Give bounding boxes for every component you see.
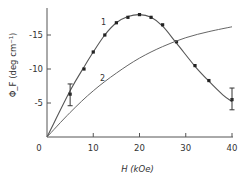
data-point — [103, 33, 106, 36]
data-point — [193, 64, 196, 67]
curve-label-1: 1 — [101, 18, 106, 27]
x-tick-label: 20 — [134, 143, 145, 153]
curve-label-2: 2 — [100, 74, 105, 83]
y-tick-label: -10 — [29, 64, 43, 74]
y-tick-label: -5 — [35, 98, 43, 108]
data-point — [82, 67, 85, 70]
data-point — [207, 79, 210, 82]
series-layer — [47, 13, 235, 137]
x-tick-label: 10 — [88, 143, 99, 153]
data-point — [138, 13, 141, 16]
data-point — [149, 16, 152, 19]
x-axis-label: H (kOe) — [121, 164, 154, 174]
x-tick-label: 30 — [180, 143, 191, 153]
y-axis-label: Φ_F (deg cm⁻¹) — [8, 33, 18, 98]
axes: 010203040-5-10-15 — [29, 8, 237, 153]
data-point — [92, 50, 95, 53]
labels-layer: H (kOe)Φ_F (deg cm⁻¹)12 — [8, 18, 154, 174]
faraday-rotation-chart: 010203040-5-10-15 H (kOe)Φ_F (deg cm⁻¹)1… — [0, 0, 248, 180]
data-point — [161, 23, 164, 26]
y-tick-label: -15 — [29, 30, 43, 40]
x-tick-label: 40 — [227, 143, 238, 153]
data-point — [126, 16, 129, 19]
x-tick-label: 0 — [36, 143, 41, 153]
data-point — [115, 21, 118, 24]
